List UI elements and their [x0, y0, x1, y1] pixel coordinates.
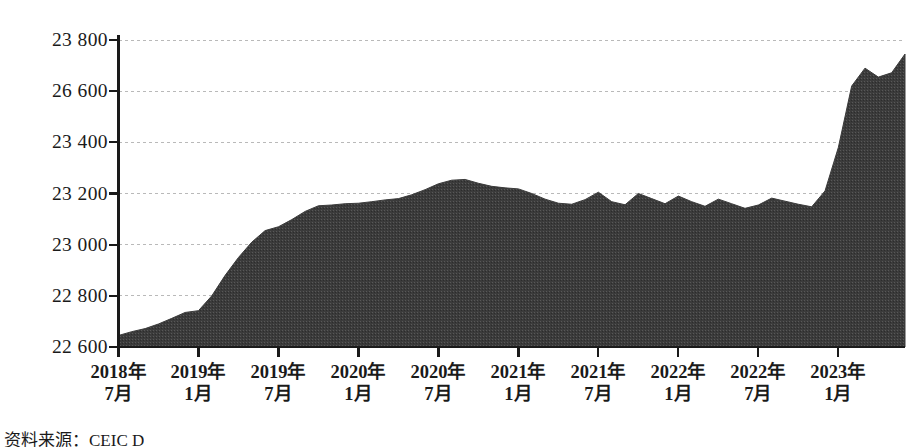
x-axis-label-year: 2023年: [778, 361, 898, 383]
x-axis-label: 2023年1月: [778, 361, 898, 405]
chart-figure: 22 60022 80023 00023 20023 40026 60023 8…: [0, 0, 918, 447]
x-axis-tick-labels: 2018年7月2019年1月2019年7月2020年1月2020年7月2021年…: [0, 0, 918, 447]
source-note: 资料来源：CEIC D: [4, 431, 144, 447]
x-axis-label-month: 1月: [778, 383, 898, 405]
